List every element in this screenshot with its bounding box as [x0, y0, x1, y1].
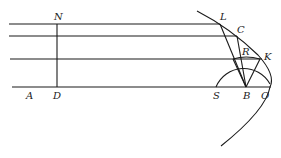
label-R: R — [241, 46, 250, 57]
label-S: S — [213, 90, 220, 101]
parabola-curve — [197, 11, 272, 146]
label-B: B — [242, 90, 250, 101]
label-O: O — [261, 90, 269, 101]
label-N: N — [53, 11, 64, 22]
label-A: A — [25, 90, 33, 101]
geometry-diagram: N L C R K A D S B O — [0, 0, 281, 158]
line-K-B — [246, 59, 260, 87]
label-C: C — [237, 24, 245, 35]
label-D: D — [52, 90, 61, 101]
label-K: K — [263, 51, 272, 62]
label-L: L — [219, 11, 227, 22]
